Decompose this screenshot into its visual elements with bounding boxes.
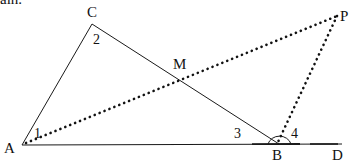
angle-label-3: 3 bbox=[234, 127, 241, 141]
angle-label-4: 4 bbox=[291, 127, 298, 141]
point-label-a: A bbox=[4, 141, 15, 156]
point-label-m: M bbox=[173, 57, 186, 72]
point-label-p: P bbox=[340, 9, 348, 24]
dotted-segment-ap bbox=[26, 16, 337, 143]
point-label-c: C bbox=[87, 5, 97, 20]
segment-ac bbox=[22, 24, 92, 145]
segment-cb bbox=[92, 24, 279, 144]
point-label-d: D bbox=[332, 148, 343, 162]
angle-label-2: 2 bbox=[93, 33, 100, 47]
triangle-diagram bbox=[0, 0, 354, 162]
dotted-segment-bp bbox=[278, 16, 337, 142]
angle-label-1: 1 bbox=[34, 127, 41, 141]
point-label-b: B bbox=[272, 148, 282, 162]
